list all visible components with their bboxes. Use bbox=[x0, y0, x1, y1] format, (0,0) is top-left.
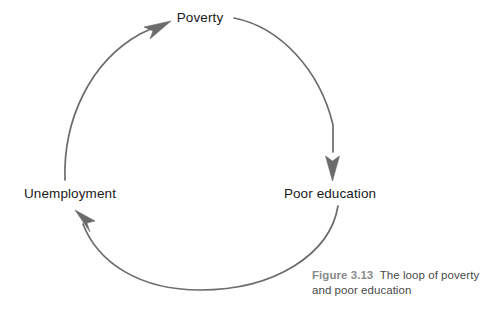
edge-unemployment-to-poverty-line bbox=[65, 28, 153, 180]
edge-poor-education-to-unemployment-line bbox=[83, 206, 338, 290]
edge-poverty-to-poor-education bbox=[234, 18, 340, 181]
edge-poverty-to-poor-education-line bbox=[234, 18, 333, 152]
figure-caption-number: Figure 3.13 bbox=[312, 269, 373, 281]
edge-poor-education-to-unemployment bbox=[75, 206, 338, 290]
node-label-poverty: Poverty bbox=[0, 11, 400, 25]
node-label-poor-education: Poor education bbox=[270, 187, 390, 201]
arrowhead-down-icon bbox=[326, 156, 340, 181]
figure-caption: Figure 3.13 The loop of poverty and poor… bbox=[312, 268, 498, 297]
node-label-unemployment: Unemployment bbox=[10, 187, 130, 201]
edge-unemployment-to-poverty bbox=[65, 21, 171, 180]
figure-container: Poverty Poor education Unemployment Figu… bbox=[0, 0, 504, 320]
